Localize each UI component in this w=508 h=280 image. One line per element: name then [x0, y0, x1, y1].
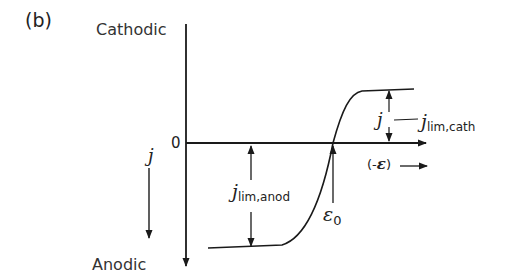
cathodic-limit-label: jlim,cath — [421, 112, 475, 131]
equilibrium-potential-label: ε0 — [323, 205, 341, 224]
potential-axis-label: (-ε) — [367, 157, 391, 172]
potential-label-open: (- — [367, 157, 377, 172]
diagram-canvas — [0, 0, 508, 280]
equilibrium-subscript: 0 — [333, 213, 341, 228]
cathodic-limit-subscript: lim,cath — [427, 120, 475, 134]
origin-label: 0 — [171, 136, 181, 151]
panel-label: (b) — [25, 11, 52, 30]
potential-label-close: ) — [386, 157, 391, 172]
anodic-limit-label: jlim,anod — [232, 181, 290, 202]
anodic-limit-subscript: lim,anod — [238, 190, 290, 204]
anodic-label: Anodic — [92, 257, 146, 273]
current-direction-symbol: j — [148, 147, 154, 165]
cathodic-label: Cathodic — [96, 22, 167, 38]
potential-symbol: ε — [377, 155, 386, 173]
cathodic-limit-leader — [394, 119, 418, 120]
cathodic-limit-marker-symbol: j — [377, 111, 383, 129]
equilibrium-symbol: ε — [323, 203, 333, 225]
